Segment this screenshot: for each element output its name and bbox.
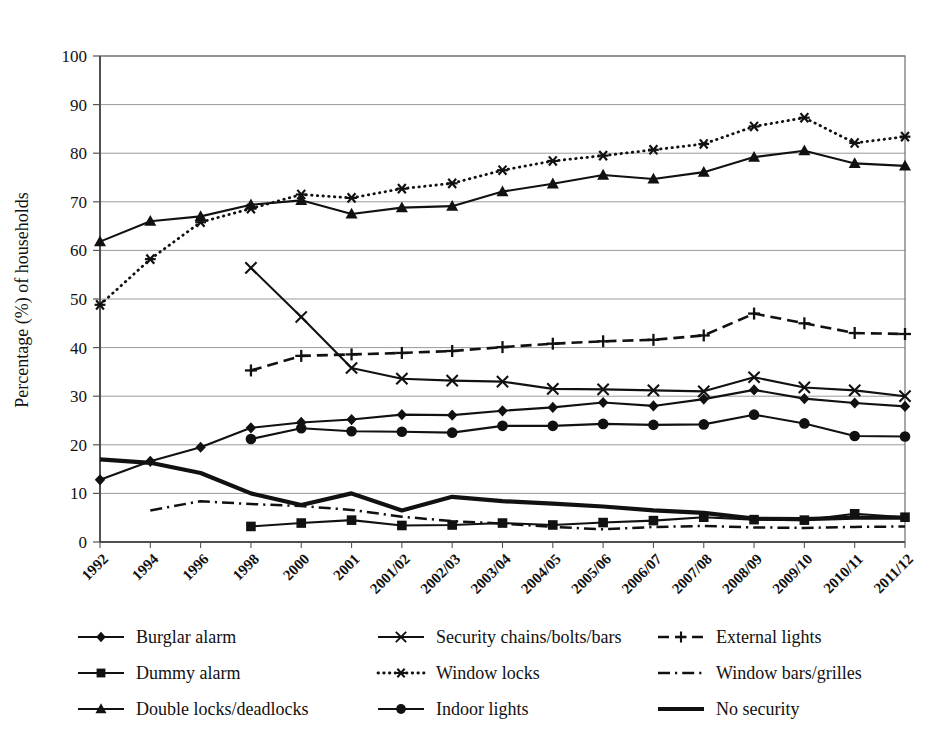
data-point-marker (548, 520, 558, 530)
data-point-marker (347, 515, 357, 525)
chart-background (0, 0, 932, 731)
y-tick-label: 60 (70, 241, 87, 260)
data-point-marker (598, 419, 609, 430)
legend-label: Indoor lights (436, 699, 529, 719)
y-tick-label: 50 (70, 290, 87, 309)
legend-label: No security (716, 699, 799, 719)
legend-marker-circle-icon (396, 704, 406, 714)
data-point-marker (346, 426, 357, 437)
legend-marker-square-icon (97, 669, 106, 678)
data-point-marker (397, 426, 408, 437)
data-point-marker (497, 421, 508, 432)
data-point-marker (296, 423, 307, 434)
data-point-marker (648, 420, 659, 431)
data-point-marker (548, 421, 559, 432)
legend-label: Window locks (436, 663, 540, 683)
chart-legend: Burglar alarmSecurity chains/bolts/barsE… (78, 627, 862, 719)
data-point-marker (698, 419, 709, 430)
legend-label: Window bars/grilles (716, 663, 862, 683)
y-tick-label: 10 (70, 484, 87, 503)
data-point-marker (799, 418, 810, 429)
data-point-marker (447, 427, 458, 438)
data-point-marker (900, 431, 911, 442)
data-point-marker (396, 704, 406, 714)
y-tick-label: 70 (70, 193, 87, 212)
data-point-marker (649, 516, 659, 526)
data-point-marker (296, 518, 306, 528)
chart-container: 0102030405060708090100 19921994199619982… (0, 0, 932, 731)
legend-label: Security chains/bolts/bars (436, 627, 621, 647)
legend-label: Dummy alarm (136, 663, 240, 683)
data-point-marker (246, 522, 256, 532)
data-point-marker (397, 521, 407, 531)
legend-label: Double locks/deadlocks (136, 699, 308, 719)
y-tick-label: 40 (70, 339, 87, 358)
data-point-marker (97, 669, 106, 678)
y-tick-label: 0 (79, 533, 88, 552)
legend-label: Burglar alarm (136, 627, 236, 647)
y-tick-label: 100 (62, 47, 88, 66)
y-tick-label: 20 (70, 436, 87, 455)
y-tick-label: 80 (70, 144, 87, 163)
y-axis-title: Percentage (%) of households (12, 192, 33, 407)
line-chart: 0102030405060708090100 19921994199619982… (0, 0, 932, 731)
data-point-marker (849, 431, 860, 442)
y-tick-label: 30 (70, 387, 87, 406)
y-tick-label: 90 (70, 96, 87, 115)
data-point-marker (598, 518, 608, 528)
legend-label: External lights (716, 627, 821, 647)
data-point-marker (749, 409, 760, 420)
data-point-marker (246, 434, 257, 445)
